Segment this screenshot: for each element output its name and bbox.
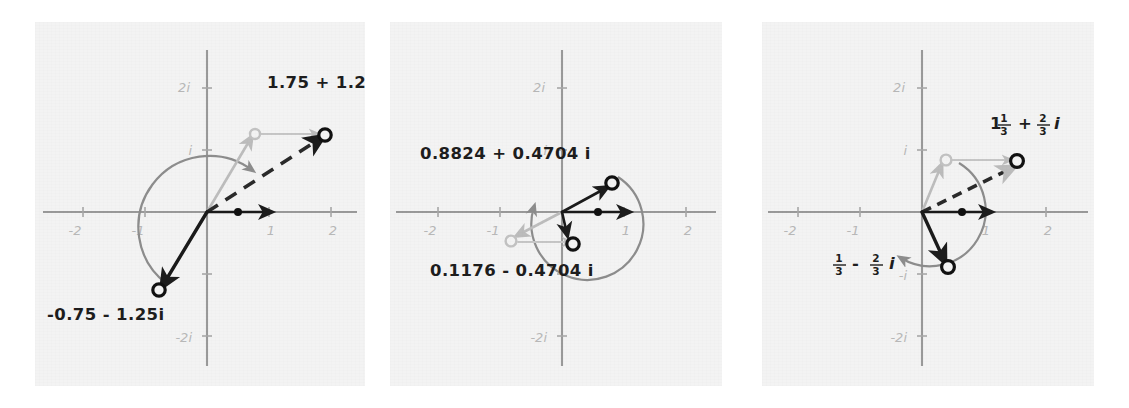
intermediate-point bbox=[941, 155, 952, 166]
label-upper: 0.8824 + 0.4704 i bbox=[420, 144, 591, 163]
label-frac2-denominator: 3 bbox=[1039, 125, 1046, 137]
rotation-arc bbox=[901, 163, 986, 266]
panel-middle: -2 -1 1 2 2i i -2i 0.8824 + 0.4704 i 0.1… bbox=[390, 22, 722, 386]
dark-rotated-vector bbox=[922, 212, 944, 260]
x-tick-label-neg2: -2 bbox=[69, 223, 82, 238]
x-tick-label-2: 2 bbox=[684, 223, 692, 238]
label-lower-left: 1 3 - 2 3 i bbox=[833, 252, 895, 277]
result-point bbox=[1011, 155, 1024, 168]
figure-root: -2 -1 1 2 2i i -2i 1.75 + 1. bbox=[0, 0, 1129, 408]
x-tick-label-2: 2 bbox=[1044, 223, 1052, 238]
label-upper-right: 1 1 3 + 2 3 i bbox=[990, 112, 1060, 137]
label-frac2-numerator: 2 bbox=[1039, 112, 1046, 124]
y-tick-label-i: i bbox=[903, 143, 907, 158]
label-operator: + bbox=[1018, 114, 1032, 133]
label-lower-left: -0.75 - 1.25i bbox=[47, 305, 164, 324]
panel-left: -2 -1 1 2 2i i -2i 1.75 + 1. bbox=[35, 22, 365, 386]
result-point bbox=[319, 129, 331, 141]
rotation-arc bbox=[138, 156, 252, 284]
panel-right: -2 -1 1 2 2i i -i -2i 1 1 3 + bbox=[762, 22, 1094, 386]
x-tick-label-2: 2 bbox=[329, 223, 337, 238]
dashed-result-vector bbox=[922, 168, 1012, 212]
label-frac1-denominator: 3 bbox=[835, 265, 842, 277]
intermediate-point bbox=[250, 129, 260, 139]
x-tick-label-neg2: -2 bbox=[784, 223, 797, 238]
y-tick-label-2i: 2i bbox=[178, 80, 190, 95]
y-tick-label-2i: 2i bbox=[893, 80, 905, 95]
light-to-conjugate-vector bbox=[518, 212, 562, 235]
label-frac1-denominator: 3 bbox=[1000, 125, 1007, 137]
y-tick-label-neg2i: -2i bbox=[175, 330, 192, 345]
panel-middle-plot: -2 -1 1 2 2i i -2i 0.8824 + 0.4704 i 0.1… bbox=[390, 22, 722, 386]
intermediate-point bbox=[506, 236, 517, 247]
label-frac1-numerator: 1 bbox=[1000, 112, 1007, 124]
rotated-point bbox=[153, 284, 165, 296]
label-frac2-denominator: 3 bbox=[872, 265, 879, 277]
panel-right-plot: -2 -1 1 2 2i i -i -2i 1 1 3 + bbox=[762, 22, 1094, 386]
y-tick-label-neg-i: -i bbox=[899, 268, 908, 283]
unit-dot bbox=[594, 208, 602, 216]
dashed-result-vector bbox=[207, 138, 321, 212]
x-tick-label-neg2: -2 bbox=[424, 223, 437, 238]
x-tick-label-1: 1 bbox=[267, 223, 275, 238]
label-frac1-numerator: 1 bbox=[835, 252, 842, 264]
light-diagonal-vector bbox=[207, 138, 251, 212]
y-tick-label-neg2i: -2i bbox=[890, 330, 907, 345]
label-operator: - bbox=[852, 254, 859, 273]
dark-rotated-vector bbox=[163, 212, 207, 285]
x-tick-label-1: 1 bbox=[622, 223, 630, 238]
y-tick-label-i: i bbox=[188, 143, 192, 158]
label-imaginary-unit: i bbox=[889, 254, 895, 273]
panel-left-plot: -2 -1 1 2 2i i -2i 1.75 + 1. bbox=[35, 22, 365, 386]
x-tick-label-neg1: -1 bbox=[487, 223, 500, 238]
unit-dot bbox=[958, 208, 966, 216]
label-lower: 0.1176 - 0.4704 i bbox=[430, 261, 594, 280]
y-tick-label-neg2i: -2i bbox=[530, 330, 547, 345]
label-upper-right: 1.75 + 1.25 i bbox=[267, 73, 365, 92]
unit-dot bbox=[234, 208, 242, 216]
label-imaginary-unit: i bbox=[1054, 114, 1060, 133]
result-point bbox=[606, 177, 618, 189]
rotated-point bbox=[942, 261, 955, 274]
rotated-point bbox=[567, 238, 579, 250]
y-tick-label-2i: 2i bbox=[533, 80, 545, 95]
label-frac2-numerator: 2 bbox=[872, 252, 879, 264]
x-tick-label-neg1: -1 bbox=[847, 223, 860, 238]
